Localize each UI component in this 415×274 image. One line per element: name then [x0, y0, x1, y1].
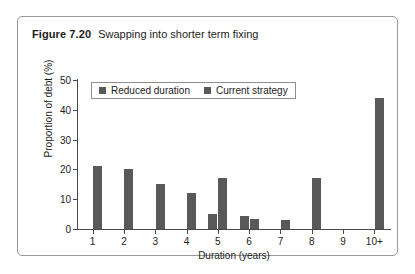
bar: [240, 216, 249, 229]
x-axis-tick-mark: [218, 230, 219, 234]
legend-label: Current strategy: [216, 85, 288, 96]
x-axis-tick-label: 9: [340, 236, 346, 247]
chart-legend: Reduced durationCurrent strategy: [91, 82, 296, 99]
legend-entry: Current strategy: [204, 85, 288, 96]
x-axis-tick-label: 10+: [366, 236, 383, 247]
x-axis-tick-mark: [93, 230, 94, 234]
x-axis-tick-mark: [343, 230, 344, 234]
x-axis-tick-label: 1: [90, 236, 96, 247]
x-axis-tick-mark: [374, 230, 375, 234]
bar: [281, 220, 290, 229]
bar: [208, 214, 217, 229]
x-axis-tick-label: 7: [278, 236, 284, 247]
x-axis-tick-label: 8: [309, 236, 315, 247]
x-axis-tick-mark: [280, 230, 281, 234]
legend-swatch-icon: [99, 87, 106, 94]
figure-title: Swapping into shorter term fixing: [98, 28, 258, 40]
y-axis-title: Proportion of debt (%): [43, 49, 54, 169]
x-axis-tick-label: 4: [184, 236, 190, 247]
y-axis-tick-label: 0: [49, 224, 71, 235]
x-axis-tick-label: 3: [152, 236, 158, 247]
legend-swatch-icon: [204, 87, 211, 94]
x-axis-tick-mark: [155, 230, 156, 234]
bar: [124, 169, 133, 229]
x-axis-title: Duration (years): [77, 250, 391, 261]
legend-label: Reduced duration: [111, 85, 190, 96]
bar: [187, 193, 196, 229]
bar: [312, 178, 321, 229]
bar: [375, 98, 384, 229]
x-axis-tick-mark: [249, 230, 250, 234]
bar: [218, 178, 227, 229]
y-axis-tick-label: 10: [49, 194, 71, 205]
legend-entry: Reduced duration: [99, 85, 190, 96]
x-axis-tick-label: 2: [121, 236, 127, 247]
x-axis-tick-label: 6: [246, 236, 252, 247]
x-axis-tick-mark: [187, 230, 188, 234]
bar: [156, 184, 165, 229]
bar: [250, 219, 259, 229]
figure-card: Figure 7.20Swapping into shorter term fi…: [17, 16, 398, 256]
x-axis-tick-mark: [124, 230, 125, 234]
x-axis-tick-mark: [312, 230, 313, 234]
bars-layer: [77, 80, 390, 229]
x-axis-tick-label: 5: [215, 236, 221, 247]
bar: [93, 166, 102, 229]
y-axis-tick-mark: [73, 229, 77, 230]
